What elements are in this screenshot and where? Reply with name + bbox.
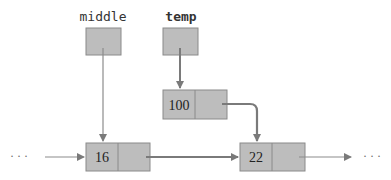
node-22-value: 22 xyxy=(249,150,263,165)
node-16: 16 xyxy=(86,143,150,171)
node-22: 22 xyxy=(240,143,305,171)
left-ellipsis: · · · xyxy=(10,149,28,163)
right-ellipsis: · · · xyxy=(363,149,381,163)
temp-label: temp xyxy=(165,9,196,24)
node-100: 100 xyxy=(163,90,227,119)
node-100-value: 100 xyxy=(169,98,190,113)
node-16-value: 16 xyxy=(95,150,109,165)
middle-label: middle xyxy=(80,9,127,24)
linked-list-diagram: middle temp 100 · · · 16 22 · · · xyxy=(0,0,391,180)
